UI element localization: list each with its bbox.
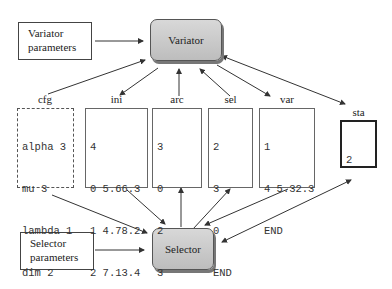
sel-line: END bbox=[213, 266, 248, 280]
cfg-line: alpha 3 bbox=[22, 140, 69, 154]
sel-file: 2 3 0 END bbox=[208, 108, 253, 188]
arc-line: 0 bbox=[157, 182, 197, 196]
cfg-line: mu 3 bbox=[22, 182, 69, 196]
arc-line: 3 bbox=[157, 266, 197, 280]
var-line: END bbox=[264, 224, 310, 238]
cfg-file: alpha 3 mu 3 lambda 1 dim 2 bbox=[17, 108, 74, 188]
ini-file: 4 0 5.66.3 1 4.78.2 2 7.13.4 3 3.49.0 EN… bbox=[85, 108, 148, 188]
arc-line: 2 bbox=[157, 224, 197, 238]
var-line: 4 5.32.3 bbox=[264, 182, 310, 196]
variator-label: Variator bbox=[168, 34, 203, 46]
cfg-line: dim 2 bbox=[22, 266, 69, 280]
var-line: 1 bbox=[264, 140, 310, 154]
ini-line: 1 4.78.2 bbox=[90, 224, 143, 238]
ini-line: 4 bbox=[90, 140, 143, 154]
diagram: Variator parameters Variator Selector pa… bbox=[0, 0, 392, 289]
ini-line: 0 5.66.3 bbox=[90, 182, 143, 196]
cfg-line: lambda 1 bbox=[22, 224, 69, 238]
sel-line: 2 bbox=[213, 140, 248, 154]
variator-params-line2: parameters bbox=[28, 40, 91, 54]
sel-line: 0 bbox=[213, 224, 248, 238]
ini-line: 2 7.13.4 bbox=[90, 266, 143, 280]
sta-line: 2 bbox=[346, 153, 371, 167]
cfg-label: cfg bbox=[17, 93, 73, 105]
variator-node: Variator bbox=[150, 19, 222, 61]
arc-label: arc bbox=[152, 93, 202, 105]
var-file: 1 4 5.32.3 END bbox=[259, 108, 315, 188]
sta-file: 2 bbox=[340, 120, 377, 168]
arc-line: 3 bbox=[157, 140, 197, 154]
var-label: var bbox=[259, 93, 315, 105]
arc-file: 3 0 2 3 END bbox=[152, 108, 202, 188]
sta-label: sta bbox=[340, 106, 377, 118]
sel-label: sel bbox=[208, 93, 253, 105]
ini-label: ini bbox=[85, 93, 148, 105]
sel-line: 3 bbox=[213, 182, 248, 196]
variator-params-line1: Variator bbox=[28, 26, 91, 40]
variator-parameters-box: Variator parameters bbox=[18, 22, 92, 60]
